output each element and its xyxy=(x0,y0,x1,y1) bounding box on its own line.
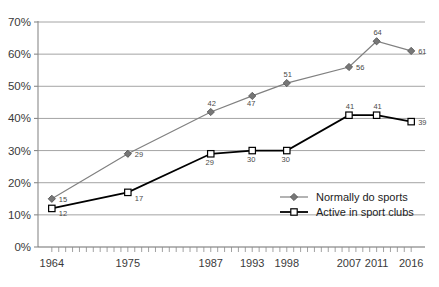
data-point-square-icon xyxy=(291,209,297,215)
data-point-square-icon xyxy=(249,147,255,153)
data-point-diamond-icon xyxy=(48,195,55,202)
y-axis-tick-label: 0% xyxy=(14,241,31,253)
data-point-label: 42 xyxy=(208,99,216,108)
data-point-square-icon xyxy=(408,118,414,124)
data-point-label: 29 xyxy=(206,158,214,167)
data-point-diamond-icon xyxy=(408,47,415,54)
x-axis-tick-label: 1975 xyxy=(116,257,140,269)
x-axis-tick-label: 1993 xyxy=(240,257,264,269)
data-point-square-icon xyxy=(373,112,379,118)
legend-label: Normally do sports xyxy=(316,191,408,203)
data-point-label: 30 xyxy=(247,155,255,164)
x-axis-tick-label: 1987 xyxy=(199,257,223,269)
data-point-label: 12 xyxy=(59,209,67,218)
data-point-label: 17 xyxy=(135,194,143,203)
data-point-square-icon xyxy=(49,205,55,211)
x-axis-tick-label: 2011 xyxy=(365,257,389,269)
data-point-label: 30 xyxy=(282,155,290,164)
y-axis-tick-label: 10% xyxy=(8,209,31,221)
data-point-label: 51 xyxy=(284,70,292,79)
x-axis-tick-label: 1964 xyxy=(40,257,64,269)
data-point-label: 41 xyxy=(373,102,381,111)
data-point-label: 41 xyxy=(346,102,354,111)
x-axis-tick-label: 2016 xyxy=(399,257,423,269)
data-point-diamond-icon xyxy=(290,193,297,200)
data-point-label: 29 xyxy=(135,150,143,159)
chart-container: 0%10%20%30%40%50%60%70%19641975198719931… xyxy=(0,0,439,287)
data-point-diamond-icon xyxy=(124,150,131,157)
y-axis-tick-label: 40% xyxy=(8,112,31,124)
data-point-label: 47 xyxy=(247,99,255,108)
data-point-label: 61 xyxy=(418,47,426,56)
data-point-label: 39 xyxy=(418,118,426,127)
y-axis-tick-label: 20% xyxy=(8,177,31,189)
x-axis-tick-label: 1998 xyxy=(275,257,299,269)
data-point-diamond-icon xyxy=(283,79,290,86)
data-point-diamond-icon xyxy=(207,108,214,115)
x-axis-tick-label: 2007 xyxy=(337,257,361,269)
data-point-square-icon xyxy=(346,112,352,118)
data-point-label: 15 xyxy=(59,195,67,204)
line-chart: 0%10%20%30%40%50%60%70%19641975198719931… xyxy=(0,0,439,287)
y-axis-tick-label: 30% xyxy=(8,145,31,157)
data-point-label: 64 xyxy=(373,28,381,37)
y-axis-tick-label: 70% xyxy=(8,16,31,28)
data-point-label: 56 xyxy=(356,63,364,72)
data-point-square-icon xyxy=(208,151,214,157)
y-axis-tick-label: 60% xyxy=(8,48,31,60)
y-axis-tick-label: 50% xyxy=(8,80,31,92)
data-point-square-icon xyxy=(284,147,290,153)
data-point-square-icon xyxy=(125,189,131,195)
legend-label: Active in sport clubs xyxy=(316,206,414,218)
